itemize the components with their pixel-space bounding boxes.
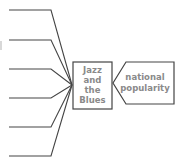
branch-line-6 [9, 85, 72, 156]
center-label-line-4: Blues [79, 95, 105, 105]
effect-label-line-2: popularity [120, 83, 170, 93]
center-label-line-2: and [84, 75, 102, 85]
branch-line-1 [9, 10, 72, 85]
branch-line-3 [9, 69, 72, 85]
branch-lines [9, 10, 72, 156]
branch-line-4 [9, 85, 72, 98]
effect-node[interactable]: national popularity [113, 62, 174, 104]
diagram-canvas: Jazz and the Blues national popularity [0, 0, 185, 160]
center-label-line-1: Jazz [82, 65, 102, 75]
effect-label-line-1: national [125, 72, 164, 82]
center-node[interactable]: Jazz and the Blues [73, 62, 112, 109]
cropped-fragment [0, 41, 2, 50]
center-label-line-3: the [85, 85, 101, 95]
